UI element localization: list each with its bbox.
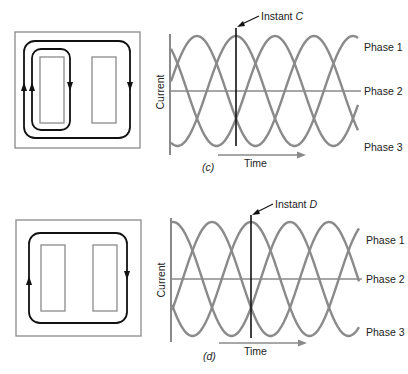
core-window-left — [41, 245, 65, 311]
legend-phase-1: Phase 1 — [366, 234, 405, 246]
x-axis-label: Time — [244, 345, 267, 357]
figure-d: Instant D Current Time (d) Phase 1 Phase… — [16, 198, 405, 362]
arrow-up-icon — [29, 82, 35, 91]
figure-caption: (c) — [202, 161, 214, 173]
waveform-plot-d: Instant D Current Time (d) Phase 1 Phase… — [155, 198, 405, 362]
arrow-right-icon — [298, 340, 307, 347]
legend-phase-1: Phase 1 — [364, 41, 403, 53]
core-window-right — [92, 57, 116, 123]
figure-caption: (d) — [203, 350, 216, 362]
arrow-up-icon — [21, 82, 27, 91]
core-outline — [16, 220, 141, 336]
arrow-up-icon — [26, 276, 32, 285]
flux-path-loop — [29, 233, 127, 323]
legend-phase-2: Phase 2 — [366, 273, 405, 285]
arrow-down-icon — [67, 82, 73, 91]
arrow-right-icon — [297, 152, 306, 159]
arrow-head-icon — [252, 209, 260, 215]
y-axis-label: Current — [155, 262, 167, 297]
transformer-core-d — [16, 220, 141, 336]
instant-label: Instant D — [275, 198, 317, 210]
figure-c: Instant C Current Time (c) Phase 1 Phase… — [15, 10, 403, 173]
arrow-down-icon — [124, 271, 130, 280]
waveform-plot-c: Instant C Current Time (c) Phase 1 Phase… — [154, 10, 403, 173]
arrow-down-icon — [127, 82, 133, 91]
transformer-core-c — [15, 32, 140, 148]
x-axis-label: Time — [244, 157, 267, 169]
y-axis-label: Current — [154, 74, 166, 109]
instant-label: Instant C — [261, 10, 303, 22]
legend-phase-3: Phase 3 — [366, 326, 405, 338]
arrow-head-icon — [237, 21, 245, 27]
legend-phase-2: Phase 2 — [364, 85, 403, 97]
core-window-right — [93, 245, 117, 311]
core-window-left — [40, 57, 64, 123]
legend-phase-3: Phase 3 — [364, 141, 403, 153]
